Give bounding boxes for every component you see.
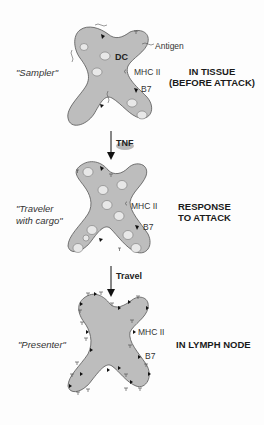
b7-marker-icon xyxy=(100,104,104,108)
mhc-label-1: MHC II xyxy=(134,67,160,77)
vesicle-icon xyxy=(87,226,97,235)
vesicle-icon xyxy=(131,244,141,253)
vesicle-icon xyxy=(98,186,108,195)
stage-3-location: IN LYMPH NODE xyxy=(176,339,251,350)
vesicle-icon xyxy=(117,181,127,190)
travel-label: Travel xyxy=(116,271,142,281)
vesicle-icon xyxy=(100,52,110,60)
vesicle-icon xyxy=(114,212,124,221)
stage-1-location-line1: IN TISSUE xyxy=(166,66,258,77)
b7-label-3: B7 xyxy=(145,351,155,361)
vesicle-icon xyxy=(102,201,112,210)
vesicle-icon xyxy=(83,168,93,177)
dc-label: DC xyxy=(115,52,128,62)
stage-1-location-line2: (BEFORE ATTACK) xyxy=(166,77,258,88)
stage-3-location-line1: IN LYMPH NODE xyxy=(176,339,251,350)
vesicle-icon xyxy=(80,44,88,51)
traveler-label-line2: with cargo" xyxy=(16,215,63,227)
traveler-label-line1: "Traveler xyxy=(16,203,63,215)
vesicle-icon xyxy=(127,99,137,107)
vesicle-icon xyxy=(83,235,89,241)
stage-2-location: RESPONSE TO ATTACK xyxy=(178,201,238,223)
vesicle-icon xyxy=(137,111,147,119)
stage-1-location: IN TISSUE (BEFORE ATTACK) xyxy=(166,66,258,88)
stage-2-location-line2: TO ATTACK xyxy=(178,212,238,223)
b7-label-2: B7 xyxy=(143,222,153,232)
b7-label-1: B7 xyxy=(141,84,151,94)
vesicle-icon xyxy=(73,244,83,253)
presenter-cell xyxy=(68,292,151,395)
mhc-receptor-icon xyxy=(118,248,121,251)
b7-marker-icon xyxy=(99,238,103,242)
antigen-icon xyxy=(95,24,107,26)
vesicle-icon xyxy=(92,68,102,76)
antigen-icon xyxy=(71,50,73,62)
tnf-label: TNF xyxy=(116,138,134,148)
traveler-label: "Traveler with cargo" xyxy=(16,203,63,227)
antigen-label: Antigen xyxy=(155,41,184,51)
presenter-label: "Presenter" xyxy=(18,339,66,350)
vesicle-icon xyxy=(123,231,133,240)
stage-2-location-line1: RESPONSE xyxy=(178,201,238,212)
mhc-label-2: MHC II xyxy=(131,201,157,211)
mhc-label-3: MHC II xyxy=(138,327,164,337)
sampler-label: "Sampler" xyxy=(16,67,58,78)
